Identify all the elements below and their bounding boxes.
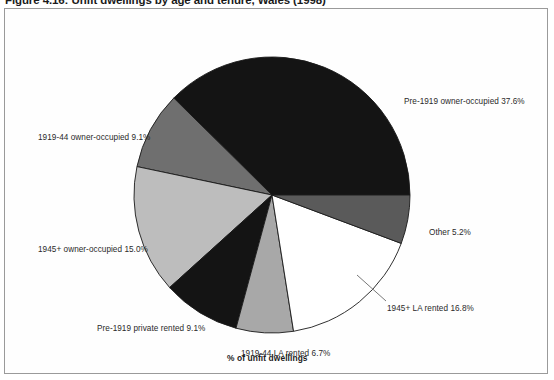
pie-slice-label: Other 5.2% bbox=[429, 228, 471, 237]
axis-caption: % of unfit dwellings bbox=[227, 353, 308, 363]
pie-chart-plot-area: Pre-1919 owner-occupied 37.6%1919-44 own… bbox=[5, 9, 549, 375]
pie-slice-label: 1945+ owner-occupied 15.0% bbox=[38, 245, 148, 254]
pie-slice-label: 1945+ LA rented 16.8% bbox=[387, 304, 474, 313]
figure-title: Figure 4.16: Unfit dwellings by age and … bbox=[5, 0, 326, 6]
pie-slice-label: Pre-1919 private rented 9.1% bbox=[97, 324, 205, 333]
pie-slice-label: Pre-1919 owner-occupied 37.6% bbox=[404, 97, 525, 106]
chart-frame: Pre-1919 owner-occupied 37.6%1919-44 own… bbox=[4, 8, 548, 374]
pie-chart-svg bbox=[5, 9, 549, 375]
pie-slice-label: 1919-44 owner-occupied 9.1% bbox=[38, 133, 150, 142]
